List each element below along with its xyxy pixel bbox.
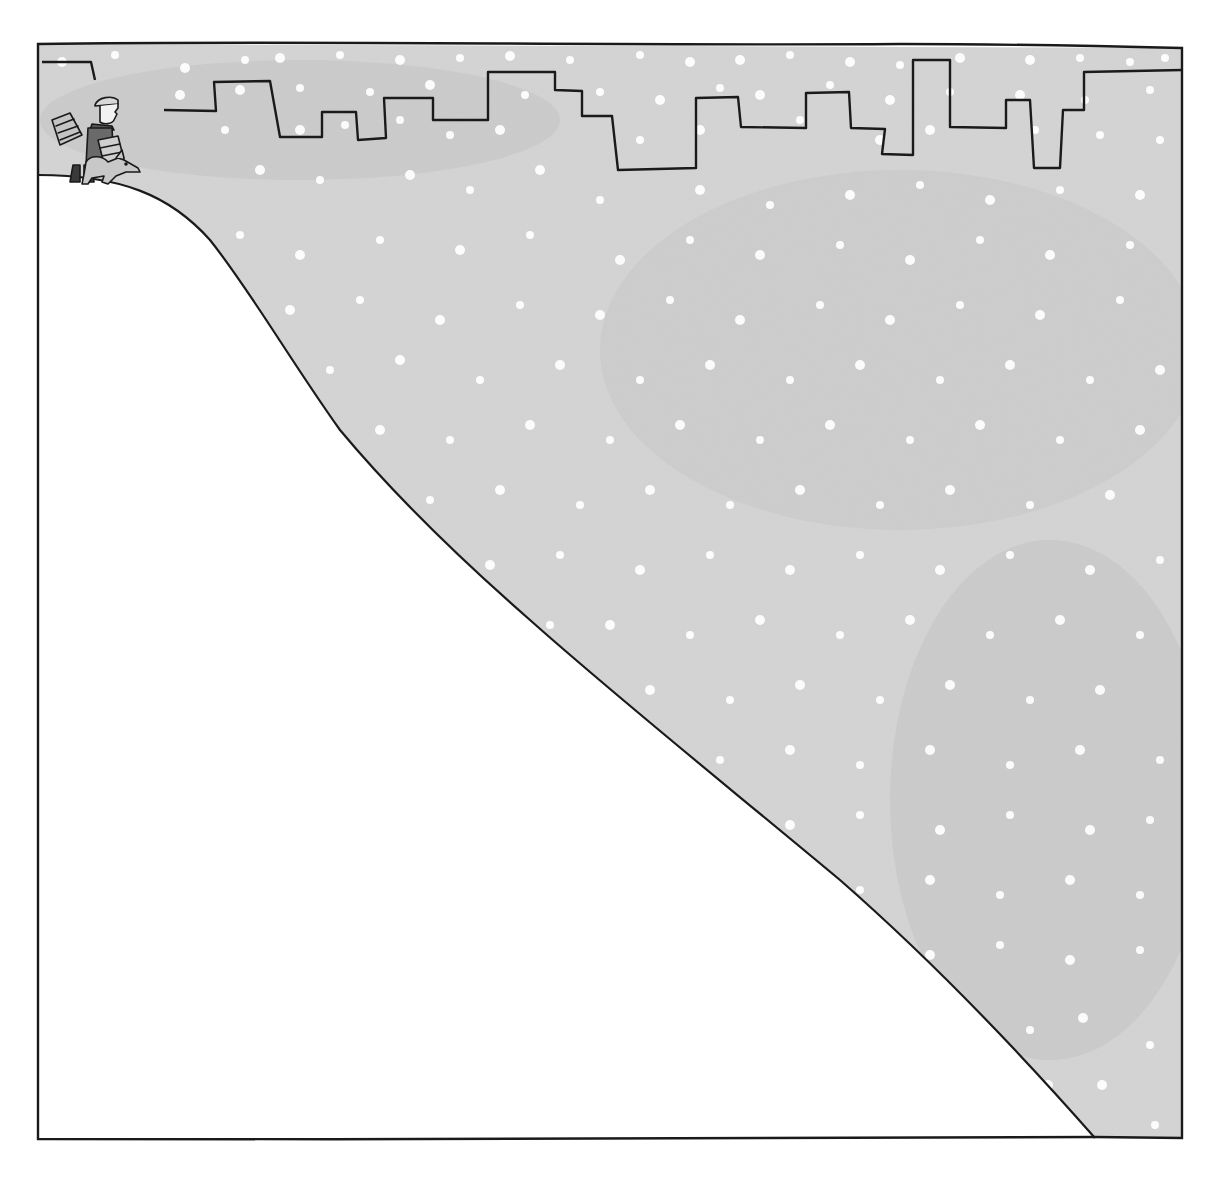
illustration-caption: Pen-and-ink cartoon: a small figure carr…: [0, 0, 1223, 1]
sky: [0, 0, 1223, 1179]
snowy-hill-illustration: [0, 0, 1223, 1179]
